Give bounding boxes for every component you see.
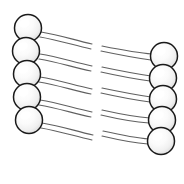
node-sphere-l5[interactable] (16, 107, 43, 134)
left-node-column (13, 15, 43, 134)
node-l5[interactable] (16, 107, 43, 134)
diagram-svg (0, 0, 184, 184)
node-sphere-r5[interactable] (148, 128, 175, 155)
diagram-canvas (0, 0, 184, 184)
right-node-column (148, 43, 178, 155)
node-r5[interactable] (148, 128, 175, 155)
